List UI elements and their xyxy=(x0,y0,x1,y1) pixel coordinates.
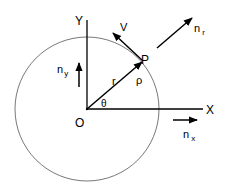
velocity-label: V xyxy=(120,21,128,33)
y-axis-label: Y xyxy=(75,14,83,28)
n-y-label: ny xyxy=(57,63,68,78)
n-r-label: nr xyxy=(194,22,205,37)
velocity-arrow xyxy=(113,33,143,61)
n-r-arrow xyxy=(157,18,192,48)
radius-label: r xyxy=(112,75,116,87)
theta-label: θ xyxy=(101,98,107,109)
point-label: P xyxy=(141,53,149,67)
n-x-label: nx xyxy=(183,128,195,143)
origin-point xyxy=(86,108,88,110)
origin-label: O xyxy=(75,116,84,130)
rho-label: ρ xyxy=(136,74,142,86)
x-axis-label: X xyxy=(206,103,214,117)
polar-coordinates-diagram: Y X O P V r ρ θ nr ny nx xyxy=(0,0,229,192)
